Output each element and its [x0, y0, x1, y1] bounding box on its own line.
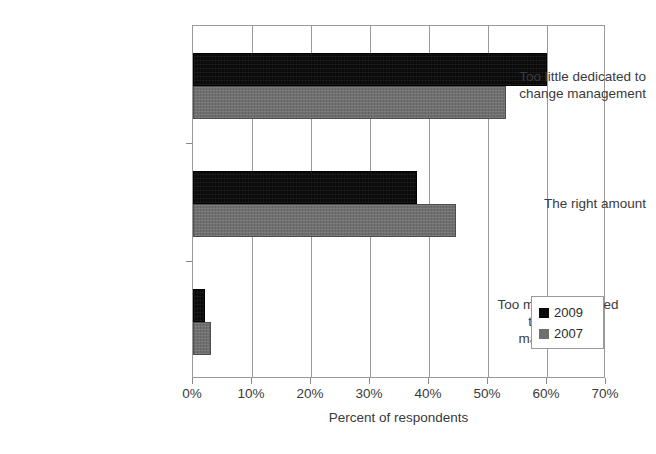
x-axis-tick — [251, 378, 252, 384]
x-axis-tick-label: 10% — [223, 386, 279, 401]
x-axis-tick-label: 60% — [518, 386, 574, 401]
category-label-line: The right amount — [470, 195, 646, 212]
legend-item-2009: 2009 — [539, 302, 603, 323]
legend-label: 2007 — [554, 327, 583, 340]
x-axis-tick — [369, 378, 370, 384]
bar-2009 — [193, 171, 417, 204]
legend: 2009 2007 — [531, 296, 604, 349]
bar-2007 — [193, 204, 456, 237]
category-label: Too little dedicated tochange management — [470, 68, 656, 102]
category-label-line: Too little dedicated to — [470, 68, 646, 85]
y-axis-minor-tick — [186, 261, 192, 262]
legend-swatch-icon — [539, 329, 549, 339]
category-label-line: change management — [470, 85, 646, 102]
x-axis-tick — [605, 378, 606, 384]
y-axis-minor-tick — [186, 143, 192, 144]
bar-2007 — [193, 322, 211, 355]
x-axis-tick — [310, 378, 311, 384]
x-axis-tick-label: 50% — [459, 386, 515, 401]
x-axis-tick — [487, 378, 488, 384]
x-axis-tick — [428, 378, 429, 384]
bar-2009 — [193, 289, 205, 322]
x-axis-tick-label: 30% — [341, 386, 397, 401]
x-axis-tick-label: 20% — [282, 386, 338, 401]
legend-item-2007: 2007 — [539, 323, 603, 344]
x-axis-tick — [192, 378, 193, 384]
legend-label: 2009 — [554, 306, 583, 319]
x-axis-tick — [546, 378, 547, 384]
x-axis-tick-label: 70% — [577, 386, 633, 401]
x-axis-title: Percent of respondents — [192, 410, 605, 425]
category-label: The right amount — [470, 195, 656, 212]
x-axis-tick-label: 40% — [400, 386, 456, 401]
bar-2007 — [193, 86, 506, 119]
bar-chart: 0%10%20%30%40%50%60%70% Too little dedic… — [0, 0, 656, 454]
x-axis-tick-label: 0% — [164, 386, 220, 401]
legend-swatch-icon — [539, 308, 549, 318]
